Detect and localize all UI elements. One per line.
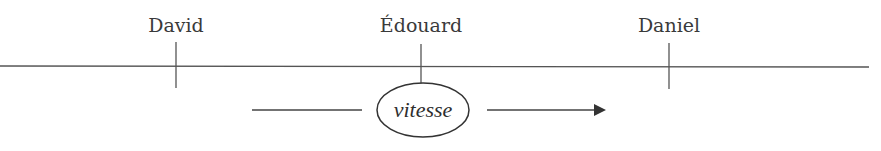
marker-david: David: [148, 14, 204, 88]
vitesse-label: vitesse: [394, 97, 453, 122]
arrow-right-icon: [487, 104, 606, 116]
marker-label-daniel: Daniel: [638, 14, 700, 36]
timeline-axis: [0, 66, 869, 67]
marker-edouard: Édouard: [380, 14, 462, 83]
marker-daniel: Daniel: [638, 14, 700, 89]
marker-label-david: David: [148, 14, 204, 36]
timeline-diagram: David Édouard Daniel vitesse: [0, 0, 881, 151]
vitesse-node: vitesse: [377, 83, 469, 137]
marker-label-edouard: Édouard: [380, 14, 462, 36]
